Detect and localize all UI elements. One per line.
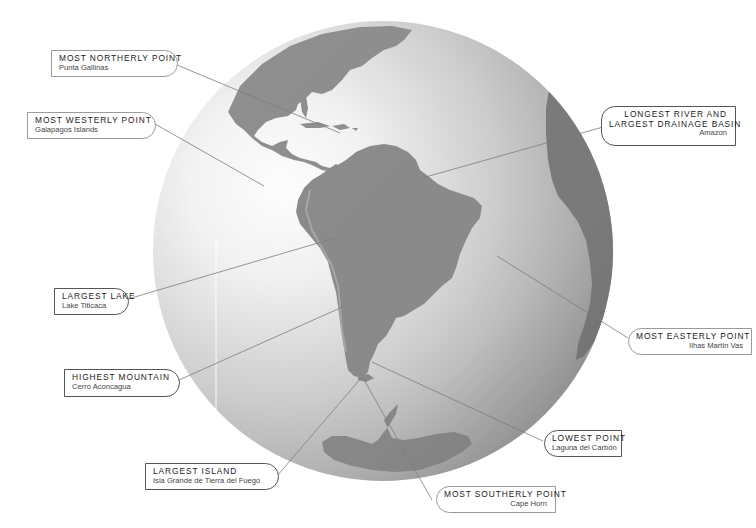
- label-subtitle: Punta Gallinas: [59, 64, 169, 73]
- globe: [153, 21, 616, 481]
- label-subtitle: Cape Horn: [444, 500, 547, 509]
- label-longest-river: LONGEST RIVER AND LARGEST DRAINAGE BASIN…: [601, 106, 736, 146]
- label-subtitle: Cerro Aconcagua: [72, 383, 171, 392]
- globe-diagram: MOST NORTHERLY POINT Punta Gallinas MOST…: [0, 0, 756, 528]
- label-largest-island: LARGEST ISLAND Isla Grande de Tierra del…: [145, 463, 279, 490]
- label-most-easterly-point: MOST EASTERLY POINT Ilhas Martin Vas: [628, 328, 752, 355]
- label-subtitle: Lake Titicaca: [62, 302, 120, 311]
- label-most-northerly-point: MOST NORTHERLY POINT Punta Gallinas: [51, 50, 178, 77]
- label-lowest-point: LOWEST POINT Laguna del Carbón: [544, 430, 622, 457]
- label-subtitle: Galapagos Islands: [35, 126, 147, 135]
- label-subtitle: Ilhas Martin Vas: [636, 342, 743, 351]
- label-subtitle: Laguna del Carbón: [552, 444, 613, 453]
- label-most-southerly-point: MOST SOUTHERLY POINT Cape Horn: [436, 486, 556, 513]
- label-most-westerly-point: MOST WESTERLY POINT Galapagos Islands: [27, 112, 156, 139]
- label-largest-lake: LARGEST LAKE Lake Titicaca: [54, 288, 129, 315]
- label-subtitle: Isla Grande de Tierra del Fuego: [153, 477, 270, 486]
- label-subtitle: Amazon: [609, 129, 727, 138]
- label-highest-mountain: HIGHEST MOUNTAIN Cerro Aconcagua: [64, 369, 180, 397]
